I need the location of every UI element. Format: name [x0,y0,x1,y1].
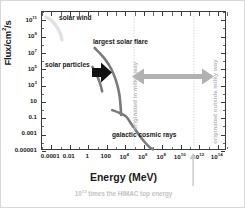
y-tick-label: 0.00001 [1,147,37,153]
y-tick-label-exponent: 5 [35,64,37,69]
y-tick-mark [42,118,46,119]
caption-pre: 10 [75,190,82,197]
y-tick-mark [42,135,46,136]
x-tick-mark [79,147,80,149]
x-tick-mark [162,12,163,16]
y-tick-mark [223,143,225,144]
y-tick-label-exponent: 7 [35,48,37,53]
y-tick-mark [221,118,225,119]
y-tick-label: 103 [1,81,37,88]
y-tick-label: 107 [1,49,37,56]
x-tick-mark [98,147,99,149]
y-tick-label: 1011 [1,16,37,23]
x-tick-mark [172,147,173,149]
x-tick-mark [61,147,62,149]
x-tick-mark [107,145,108,149]
plot-area: originated in milky way originated outsi… [41,11,226,150]
x-tick-mark [190,147,191,149]
y-axis-title-sup: 2 [1,28,7,31]
x-tick-mark [199,145,200,149]
y-tick-mark [42,102,46,103]
y-tick-label-exponent: 11 [32,15,37,20]
x-tick-mark [181,12,182,16]
y-tick-mark [42,126,44,127]
y-tick-mark [221,102,225,103]
figure-container: Flux/cm2/s 1011109107105103100.10.0010.0… [0,0,245,208]
y-tick-mark [223,126,225,127]
figure-caption: 1012 times the HIMAC top energy [1,189,245,197]
y-tick-mark [42,61,44,62]
x-tick-mark [144,145,145,149]
y-tick-mark [42,110,44,111]
y-tick-label-base: 0.1 [28,113,37,120]
x-tick-label-exponent: 14 [218,152,223,157]
y-tick-mark [221,37,225,38]
y-tick-mark [221,69,225,70]
curve-largest-solar-flare [95,48,121,115]
y-tick-mark [42,94,44,95]
y-tick-label-base: 0.001 [22,129,37,136]
y-tick-label-base: 10 [28,32,35,39]
y-tick-mark [223,61,225,62]
originated-in-milky-way-label: originated in milky way [132,62,138,130]
y-tick-label-base: 10 [30,97,37,104]
x-tick-mark [51,145,52,149]
y-tick-mark [42,77,44,78]
x-tick-mark [190,12,191,16]
x-tick-mark [135,12,136,16]
x-tick-mark [162,145,163,149]
y-tick-label-exponent: 9 [35,31,37,36]
y-tick-mark [42,45,44,46]
x-tick-mark [153,12,154,16]
x-tick-mark [218,12,219,16]
largest-solar-flare-label: largest solar flare [93,39,148,46]
x-tick-mark [125,145,126,149]
y-tick-mark [42,151,46,152]
y-tick-mark [221,151,225,152]
y-tick-mark [223,110,225,111]
curve-solar-particles [92,67,102,92]
y-tick-label-base: 10 [28,49,35,56]
x-tick-label-base: 10 [211,153,218,160]
y-tick-mark [223,12,225,13]
x-tick-mark [209,147,210,149]
y-tick-mark [221,86,225,87]
y-tick-mark [223,94,225,95]
x-tick-mark [172,12,173,16]
y-tick-mark [42,86,46,87]
x-tick-mark [153,147,154,149]
x-tick-mark [88,145,89,149]
x-tick-label-base: 10 [174,153,181,160]
y-tick-label: 105 [1,65,37,72]
y-tick-mark [221,135,225,136]
x-tick-mark [125,12,126,16]
y-tick-mark [223,77,225,78]
x-tick-mark [218,145,219,149]
y-tick-label-base: 10 [28,65,35,72]
x-tick-mark [51,12,52,16]
originated-outside-milky-way-label: originated outside milky way [212,59,218,144]
y-tick-label: 0.1 [1,114,37,120]
y-tick-mark [221,20,225,21]
y-tick-label: 109 [1,32,37,39]
x-tick-mark [227,12,228,16]
y-tick-mark [42,20,46,21]
x-tick-mark [42,12,43,16]
y-tick-mark [42,53,46,54]
caption-post: times the HIMAC top energy [87,190,173,197]
x-tick-mark [199,12,200,16]
y-tick-label-base: 10 [28,81,35,88]
x-tick-mark [181,145,182,149]
solar-particles-label: solar particles [45,62,90,69]
y-tick-mark [223,28,225,29]
x-tick-mark [135,147,136,149]
x-axis-title: Energy (MeV) [1,171,245,183]
y-tick-mark [223,45,225,46]
solar-wind-label: solar wind [59,15,92,22]
x-tick-mark [209,12,210,16]
x-tick-mark [70,145,71,149]
y-tick-label-base: 0.00001 [15,146,37,153]
x-tick-mark [144,12,145,16]
x-tick-label-base: 10 [138,153,145,160]
y-tick-mark [42,143,44,144]
